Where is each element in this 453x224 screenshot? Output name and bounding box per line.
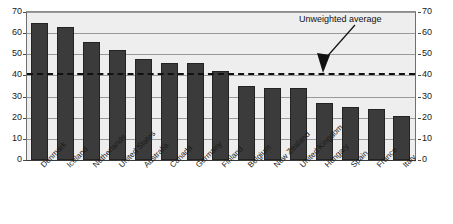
y-tick-mark — [418, 33, 421, 34]
y-tick-mark — [418, 75, 421, 76]
y-tick-label-left-30: 30 — [12, 92, 22, 101]
bar-slot — [53, 12, 79, 160]
bar-slot — [337, 12, 363, 160]
y-tick-label-left-40: 40 — [12, 70, 22, 79]
y-tick-label-right-40: 40 — [422, 70, 432, 79]
y-tick-label-left-10: 10 — [12, 134, 22, 143]
bar — [368, 109, 385, 160]
y-axis-left: 706050403020100 — [0, 0, 22, 224]
y-tick-mark — [418, 139, 421, 140]
x-axis-category-labels: DenmarkIcelandNetherlandsUnited StatesAu… — [26, 161, 414, 223]
y-tick-label-right-70: 70 — [422, 7, 432, 16]
bar-slot — [389, 12, 415, 160]
y-tick-label-right-50: 50 — [422, 49, 432, 58]
plot-area — [26, 12, 416, 160]
y-tick-mark — [23, 75, 26, 76]
y-tick-label-left-50: 50 — [12, 49, 22, 58]
y-tick-label-right-60: 60 — [422, 28, 432, 37]
bar-slot — [363, 12, 389, 160]
y-tick-label-left-20: 20 — [12, 113, 22, 122]
y-tick-mark — [23, 139, 26, 140]
y-tick-mark — [23, 12, 26, 13]
y-tick-label-left-70: 70 — [12, 7, 22, 16]
unweighted-average-annotation-label: Unweighted average — [299, 14, 382, 24]
bar-slot — [79, 12, 105, 160]
bar-slot — [182, 12, 208, 160]
y-tick-mark — [23, 54, 26, 55]
y-tick-mark — [418, 118, 421, 119]
y-tick-label-left-0: 0 — [17, 155, 22, 164]
bar-slot — [234, 12, 260, 160]
y-tick-mark — [23, 97, 26, 98]
bar-slot — [156, 12, 182, 160]
y-tick-label-right-10: 10 — [422, 134, 432, 143]
bar — [31, 23, 48, 160]
chart-container: 706050403020100 706050403020100 DenmarkI… — [0, 0, 453, 224]
bar — [57, 27, 74, 160]
y-tick-mark — [418, 54, 421, 55]
y-tick-label-right-30: 30 — [422, 92, 432, 101]
y-axis-right: 706050403020100 — [422, 0, 450, 224]
y-tick-label-left-60: 60 — [12, 28, 22, 37]
y-tick-mark — [23, 118, 26, 119]
bar — [83, 42, 100, 160]
y-tick-mark — [418, 160, 421, 161]
unweighted-average-line — [27, 73, 415, 75]
y-tick-label-right-0: 0 — [422, 155, 427, 164]
bar-slot — [27, 12, 53, 160]
y-tick-label-right-20: 20 — [422, 113, 432, 122]
y-tick-mark — [23, 33, 26, 34]
y-tick-mark — [418, 12, 421, 13]
y-tick-mark — [418, 97, 421, 98]
bar-series — [27, 12, 415, 160]
bar-slot — [208, 12, 234, 160]
bar-slot — [260, 12, 286, 160]
